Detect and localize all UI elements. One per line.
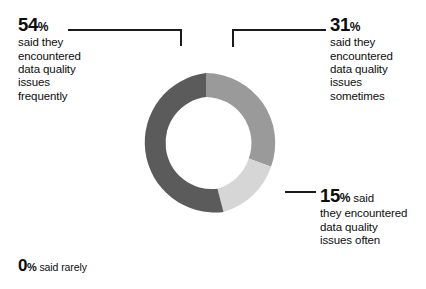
label-frequently-line3: data quality bbox=[18, 63, 81, 76]
label-rarely-number: 0 bbox=[18, 256, 27, 275]
label-sometimes: 31% said they encountered data quality i… bbox=[330, 14, 393, 103]
label-often: 15% said they encountered data quality i… bbox=[320, 185, 407, 247]
label-often-tail: said bbox=[350, 192, 374, 204]
percent-sign-icon: % bbox=[350, 20, 360, 34]
label-rarely: 0% said rarely bbox=[18, 256, 87, 277]
label-sometimes-line5: sometimes bbox=[330, 90, 393, 103]
label-sometimes-line3: data quality bbox=[330, 63, 393, 76]
label-often-percent: 15% said bbox=[320, 185, 407, 206]
chart-container: 54% said they encountered data quality i… bbox=[0, 0, 426, 289]
label-frequently: 54% said they encountered data quality i… bbox=[18, 14, 81, 103]
leader-line-frequently bbox=[68, 30, 181, 46]
label-frequently-line2: encountered bbox=[18, 50, 81, 63]
label-sometimes-line1: said they bbox=[330, 36, 393, 49]
label-sometimes-line4: issues bbox=[330, 76, 393, 89]
label-rarely-percent: 0% said rarely bbox=[18, 256, 87, 276]
donut-slice-sometimes[interactable] bbox=[206, 73, 275, 167]
label-frequently-number: 54 bbox=[18, 14, 38, 35]
label-sometimes-number: 31 bbox=[330, 14, 350, 35]
percent-sign-icon: % bbox=[38, 20, 48, 34]
label-often-line3: issues often bbox=[320, 234, 407, 247]
label-often-line1: they encountered bbox=[320, 207, 407, 220]
percent-sign-icon: % bbox=[27, 261, 37, 273]
donut-slice-often[interactable] bbox=[217, 159, 271, 212]
label-frequently-line4: issues bbox=[18, 76, 81, 89]
label-frequently-line1: said they bbox=[18, 36, 81, 49]
label-often-number: 15 bbox=[320, 185, 340, 206]
percent-sign-icon: % bbox=[340, 191, 350, 205]
leader-line-sometimes bbox=[233, 30, 326, 47]
label-rarely-tail: said rarely bbox=[37, 261, 87, 273]
label-often-line2: data quality bbox=[320, 221, 407, 234]
label-sometimes-percent: 31% bbox=[330, 14, 393, 35]
label-frequently-percent: 54% bbox=[18, 14, 81, 35]
label-frequently-line5: frequently bbox=[18, 90, 81, 103]
label-sometimes-line2: encountered bbox=[330, 50, 393, 63]
